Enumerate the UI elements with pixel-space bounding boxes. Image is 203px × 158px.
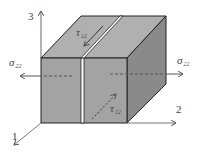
axis-3-label: 3 [28, 10, 34, 22]
axis-2-label: 2 [176, 103, 182, 115]
sigma-left-label: σ22 [9, 56, 21, 69]
stress-cube-diagram: 3 2 1 σ22 σ22 τ12 τ12 [0, 0, 203, 158]
axis-1-line [14, 123, 41, 145]
axis-1-label: 1 [12, 130, 18, 142]
cube-gap [81, 58, 84, 123]
sigma-right-label: σ22 [177, 54, 189, 67]
